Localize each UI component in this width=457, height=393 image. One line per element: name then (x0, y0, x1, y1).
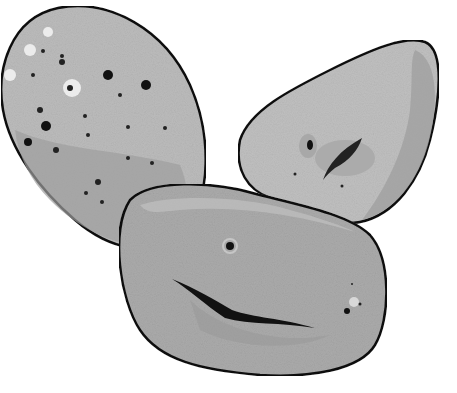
potato-spot (126, 156, 130, 160)
potato-spot (118, 93, 122, 97)
potato-highlight-spot (4, 69, 16, 81)
right-potato-dot (294, 173, 297, 176)
potato-spot (95, 179, 101, 185)
potato-spot (37, 107, 43, 113)
front-potato-spot (344, 308, 350, 314)
potato-spot (163, 126, 167, 130)
front-potato-eye (226, 242, 234, 250)
potato-highlight-spot (43, 27, 53, 37)
potato-spot (84, 191, 88, 195)
front-potato-highlight-spot (349, 297, 359, 307)
front-potato-spot (359, 303, 362, 306)
potato-spot (100, 200, 104, 204)
potato-spot (150, 161, 154, 165)
potato-spot (59, 59, 65, 65)
right-potato-dot (341, 185, 344, 188)
right-wedge-potato (239, 40, 439, 223)
illustration-canvas (0, 0, 457, 393)
potato-spot (53, 147, 59, 153)
potato-spot (141, 80, 151, 90)
potato-spot (60, 54, 64, 58)
potato-highlight-spot (24, 44, 36, 56)
potato-spot (41, 49, 45, 53)
potato-spot (31, 73, 35, 77)
potato-spot (83, 114, 87, 118)
right-potato-eye (307, 140, 313, 150)
potato-spot (67, 85, 73, 91)
potatoes-illustration (0, 0, 457, 393)
potato-spot (41, 121, 51, 131)
front-potato-spot (351, 283, 353, 285)
potato-spot (126, 125, 130, 129)
potato-spot (24, 138, 32, 146)
potato-spot (86, 133, 90, 137)
potato-spot (103, 70, 113, 80)
